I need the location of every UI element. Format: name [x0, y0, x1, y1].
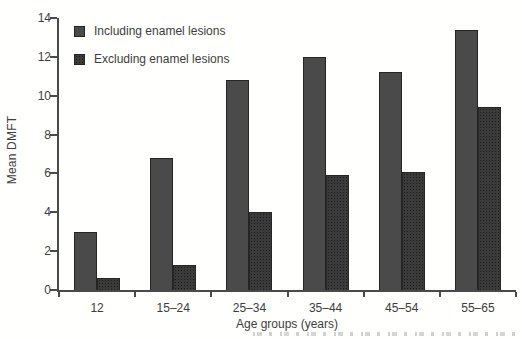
- legend-swatch-excluding-icon: [74, 54, 85, 65]
- x-axis-title: Age groups (years): [236, 317, 338, 331]
- x-category-label: 35–44: [309, 301, 342, 315]
- bar-including-12: [74, 232, 97, 290]
- y-axis-tick: [50, 289, 57, 291]
- legend: Including enamel lesions Excluding ename…: [74, 25, 229, 81]
- y-axis-tick-label: 0: [23, 283, 51, 297]
- y-axis-tick-label: 8: [23, 128, 51, 142]
- x-category-label: 55–65: [461, 301, 494, 315]
- y-axis-title: Mean DMFT: [5, 116, 19, 184]
- y-axis-tick: [50, 17, 57, 19]
- plot-area: Including enamel lesions Excluding ename…: [57, 18, 516, 292]
- bar-excluding-12: [97, 278, 120, 290]
- y-axis-tick-label: 2: [23, 244, 51, 258]
- bar-excluding-25–34: [249, 212, 272, 290]
- bar-including-25–34: [226, 80, 249, 290]
- y-axis-tick-label: 6: [23, 166, 51, 180]
- x-axis-tick: [134, 292, 136, 297]
- y-axis-tick: [50, 172, 57, 174]
- x-axis-tick: [287, 292, 289, 297]
- x-category-label: 45–54: [385, 301, 418, 315]
- bar-excluding-55–65: [478, 107, 501, 290]
- bar-excluding-15–24: [173, 265, 196, 290]
- bar-including-35–44: [303, 57, 326, 290]
- cropped-caption-fragment: [253, 332, 519, 336]
- x-axis-tick: [363, 292, 365, 297]
- bar-excluding-35–44: [326, 175, 349, 290]
- legend-item-excluding: Excluding enamel lesions: [74, 53, 229, 65]
- x-axis-tick: [58, 292, 60, 297]
- y-axis-tick: [50, 211, 57, 213]
- legend-swatch-including-icon: [74, 26, 85, 37]
- bar-excluding-45–54: [402, 172, 425, 291]
- y-axis-tick: [50, 56, 57, 58]
- y-axis-tick: [50, 134, 57, 136]
- legend-label-including: Including enamel lesions: [94, 24, 225, 38]
- bar-including-15–24: [150, 158, 173, 290]
- legend-label-excluding: Excluding enamel lesions: [94, 52, 229, 66]
- x-axis-tick: [515, 292, 517, 297]
- x-category-label: 25–34: [233, 301, 266, 315]
- bar-including-55–65: [455, 30, 478, 290]
- y-axis-tick: [50, 95, 57, 97]
- x-category-label: 12: [90, 301, 103, 315]
- y-axis-tick: [50, 250, 57, 252]
- bar-chart-figure: Mean DMFT Including enamel lesions Exclu…: [0, 0, 522, 339]
- y-axis-tick-label: 14: [23, 11, 51, 25]
- y-axis-tick-label: 4: [23, 205, 51, 219]
- y-axis-tick-label: 10: [23, 89, 51, 103]
- x-axis-tick: [210, 292, 212, 297]
- bar-including-45–54: [379, 72, 402, 290]
- y-axis-tick-label: 12: [23, 50, 51, 64]
- x-category-label: 15–24: [157, 301, 190, 315]
- legend-item-including: Including enamel lesions: [74, 25, 229, 37]
- x-axis-tick: [439, 292, 441, 297]
